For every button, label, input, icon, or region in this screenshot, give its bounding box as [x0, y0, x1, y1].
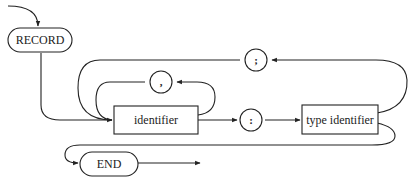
record-label: RECORD [16, 33, 65, 47]
end-label: END [97, 157, 122, 171]
identifier-label: identifier [134, 113, 178, 127]
semicolon-symbol: ; [245, 49, 267, 71]
entry-arrow [8, 6, 38, 26]
record-to-identifier-line [41, 53, 112, 120]
type-identifier-label: type identifier [306, 113, 374, 127]
colon-label: : [249, 114, 253, 126]
syntax-diagram: RECORD ; , identifier : type identifier … [0, 0, 410, 181]
record-keyword: RECORD [8, 28, 72, 52]
comma-label: , [160, 76, 163, 88]
end-keyword: END [80, 152, 138, 176]
type-identifier-box: type identifier [302, 105, 378, 134]
semicolon-label: ; [254, 54, 258, 66]
comma-symbol: , [150, 71, 172, 93]
identifier-box: identifier [114, 106, 198, 134]
colon-symbol: : [240, 109, 262, 131]
